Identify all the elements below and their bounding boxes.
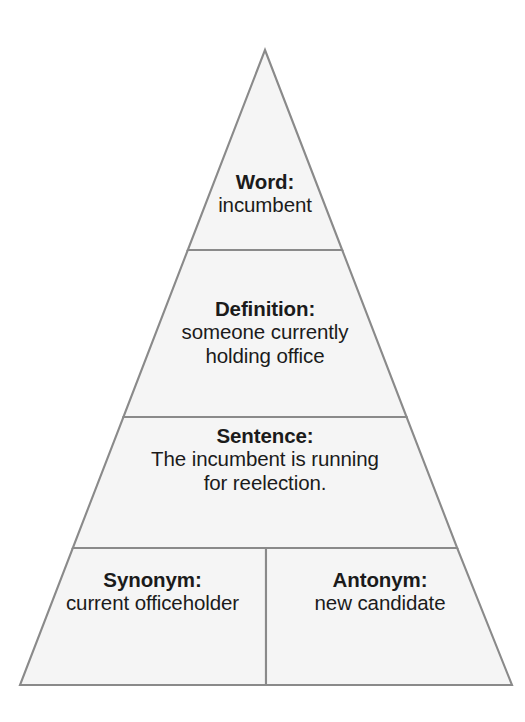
band-label-synonym: Synonym: current officeholder (40, 568, 265, 615)
band-label-word: Word: incumbent (160, 170, 370, 217)
band-label-antonym: Antonym: new candidate (270, 568, 490, 615)
word-pyramid-diagram: Word: incumbent Definition: someone curr… (0, 0, 525, 722)
band-body-synonym: current officeholder (40, 591, 265, 614)
band-body-word: incumbent (160, 193, 370, 216)
band-body-definition-line1: someone currently (110, 320, 420, 343)
band-title-word: Word: (160, 170, 370, 193)
band-body-antonym: new candidate (270, 591, 490, 614)
band-title-synonym: Synonym: (40, 568, 265, 591)
band-title-antonym: Antonym: (270, 568, 490, 591)
band-title-definition: Definition: (110, 297, 420, 320)
band-body-sentence-line2: for reelection. (80, 471, 450, 494)
band-label-definition: Definition: someone currently holding of… (110, 297, 420, 367)
band-shape-word (188, 50, 342, 250)
band-body-sentence-line1: The incumbent is running (80, 447, 450, 470)
band-title-sentence: Sentence: (80, 424, 450, 447)
band-body-definition-line2: holding office (110, 344, 420, 367)
band-label-sentence: Sentence: The incumbent is running for r… (80, 424, 450, 494)
